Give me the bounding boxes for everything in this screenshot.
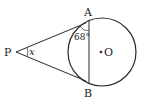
label-A: A bbox=[83, 6, 93, 19]
angle-arc-P bbox=[27, 48, 28, 57]
tangent-line-PB bbox=[16, 52, 86, 81]
geometry-diagram: A B P O 68° x bbox=[0, 0, 144, 100]
angle-label-A: 68° bbox=[74, 32, 90, 42]
label-B: B bbox=[84, 87, 92, 100]
center-dot-O bbox=[100, 51, 103, 54]
angle-label-x: x bbox=[29, 46, 35, 57]
label-O: O bbox=[104, 46, 113, 59]
angle-arc-A bbox=[80, 26, 89, 31]
label-P: P bbox=[4, 46, 12, 59]
